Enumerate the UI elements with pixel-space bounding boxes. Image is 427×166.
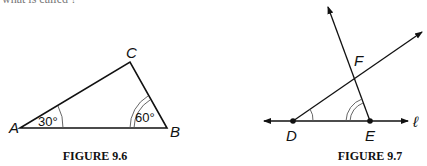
point-e-label: E <box>365 127 376 144</box>
line-l-label: ℓ <box>412 113 419 130</box>
angle-d-arc <box>310 109 313 121</box>
figure-9-6: A B C 30° 60° FIGURE 9.6 <box>8 44 180 163</box>
figure-9-7-caption: FIGURE 9.7 <box>338 149 403 163</box>
point-d-label: D <box>286 127 297 144</box>
figures-canvas: what is called ? A B C 30° 60° FIGURE 9.… <box>0 0 427 166</box>
vertex-c-label: C <box>126 44 137 61</box>
figure-9-6-caption: FIGURE 9.6 <box>63 149 128 163</box>
angle-a-arc <box>58 106 63 128</box>
vertex-a-label: A <box>8 119 19 136</box>
top-text-fragment: what is called ? <box>2 0 76 6</box>
point-f-label: F <box>354 52 364 69</box>
angle-b-value: 60° <box>135 110 155 125</box>
figure-9-7: D E F ℓ FIGURE 9.7 <box>264 7 422 163</box>
angle-a-value: 30° <box>38 114 58 129</box>
point-d <box>290 118 296 124</box>
ray-df <box>293 32 422 121</box>
ray-ef <box>328 7 370 121</box>
vertex-b-label: B <box>170 123 180 140</box>
point-e <box>367 118 373 124</box>
